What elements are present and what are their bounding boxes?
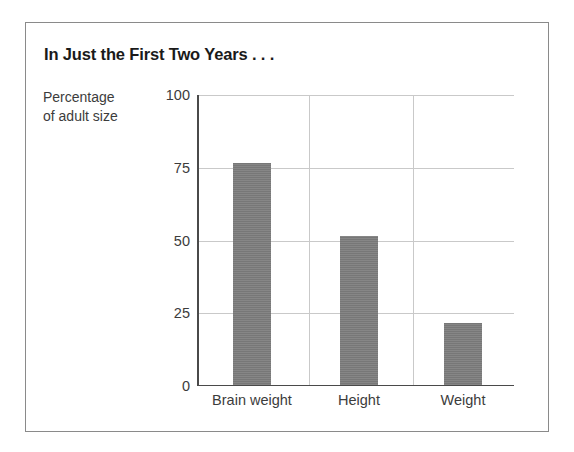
y-tick-label-100: 100 bbox=[166, 87, 190, 103]
category-separator-1 bbox=[309, 95, 310, 386]
x-tick-label-brain-weight: Brain weight bbox=[212, 392, 292, 408]
y-tick-label-25: 25 bbox=[174, 305, 190, 321]
x-tick-label-height: Height bbox=[338, 392, 380, 408]
x-tick-label-weight: Weight bbox=[441, 392, 486, 408]
x-axis-line bbox=[197, 385, 514, 387]
y-tick-label-75: 75 bbox=[174, 160, 190, 176]
bar-height bbox=[340, 236, 378, 384]
plot-area: 100 75 50 25 0 Brain weight Height Weigh… bbox=[197, 95, 514, 386]
gridline-100 bbox=[197, 95, 514, 96]
chart-title: In Just the First Two Years . . . bbox=[44, 45, 274, 64]
y-tick-label-50: 50 bbox=[174, 233, 190, 249]
figure-frame: In Just the First Two Years . . . Percen… bbox=[25, 22, 549, 432]
y-axis-caption: Percentage of adult size bbox=[43, 88, 183, 126]
y-tick-label-0: 0 bbox=[182, 378, 190, 394]
bar-weight bbox=[444, 323, 482, 384]
bar-brain-weight bbox=[233, 163, 271, 384]
y-axis-caption-line-2: of adult size bbox=[43, 107, 183, 126]
category-separator-2 bbox=[413, 95, 414, 386]
y-axis-line bbox=[197, 95, 199, 386]
y-axis-caption-line-1: Percentage bbox=[43, 88, 183, 107]
